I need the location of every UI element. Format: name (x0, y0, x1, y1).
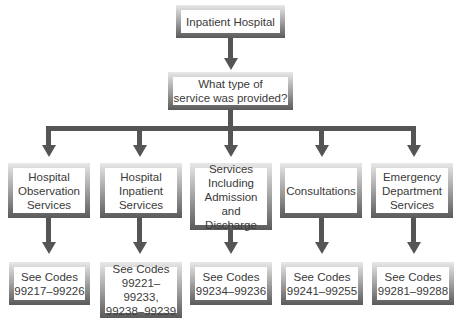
connector-root-question (228, 38, 233, 60)
arrow-down-icon (42, 145, 56, 157)
arrow-down-icon (133, 145, 147, 157)
codes-node-emergency: See Codes 99281–99288 (372, 262, 454, 305)
arrow-down-icon (42, 242, 56, 254)
arrow-down-icon (224, 58, 238, 70)
question-node: What type of service was provided? (168, 72, 293, 110)
root-node-label: Inpatient Hospital (181, 10, 280, 33)
arrow-down-icon (315, 145, 329, 157)
codes-label: See Codes 99221–99233, 99238–99239 (105, 267, 177, 313)
codes-label: See Codes 99217–99226 (14, 267, 85, 300)
category-label: Hospital Observation Services (13, 168, 85, 213)
codes-node-inpatient: See Codes 99221–99233, 99238–99239 (100, 262, 182, 318)
category-node-inpatient: Hospital Inpatient Services (100, 163, 182, 218)
category-node-admission-discharge: Services Including Admission and Dischar… (190, 163, 272, 230)
category-label: Hospital Inpatient Services (105, 168, 177, 213)
category-node-consultations: Consultations (280, 163, 362, 218)
codes-label: See Codes 99234–99236 (195, 267, 267, 300)
category-node-observation: Hospital Observation Services (8, 163, 90, 218)
category-label: Emergency Department Services (376, 168, 448, 213)
root-node: Inpatient Hospital (176, 5, 285, 38)
arrow-down-icon (315, 242, 329, 254)
category-node-emergency: Emergency Department Services (371, 163, 453, 218)
codes-node-observation: See Codes 99217–99226 (9, 262, 90, 305)
connector-codes-4 (319, 218, 324, 244)
arrow-down-icon (407, 145, 421, 157)
category-label: Services Including Admission and Dischar… (195, 168, 267, 225)
arrow-down-icon (224, 145, 238, 157)
connector-codes-5 (411, 218, 416, 244)
arrow-down-icon (407, 242, 421, 254)
connector-codes-2 (137, 218, 142, 244)
codes-node-consultations: See Codes 99241–99255 (281, 262, 363, 305)
codes-node-admission-discharge: See Codes 99234–99236 (190, 262, 272, 305)
arrow-down-icon (133, 242, 147, 254)
codes-label: See Codes 99241–99255 (286, 267, 358, 300)
connector-codes-1 (46, 218, 51, 244)
arrow-down-icon (224, 242, 238, 254)
codes-label: See Codes 99281–99288 (377, 267, 449, 300)
question-node-label: What type of service was provided? (173, 77, 288, 105)
category-label: Consultations (285, 168, 357, 213)
